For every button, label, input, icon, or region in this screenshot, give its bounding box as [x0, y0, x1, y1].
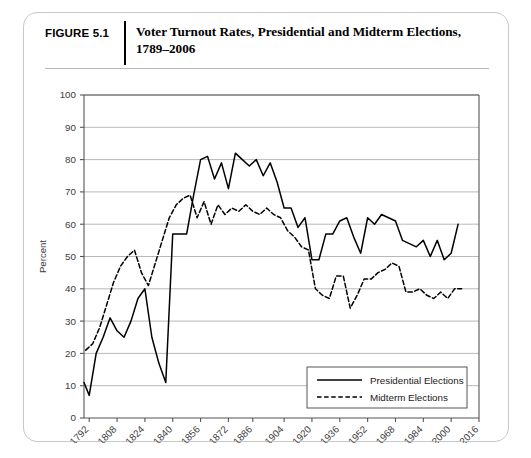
legend-entry-label: Midterm Elections [370, 392, 448, 403]
x-axis-tick-label: 2000 [429, 423, 453, 443]
data-series-group [84, 153, 462, 395]
y-axis-tick-label: 50 [65, 251, 76, 262]
y-axis-tick-label: 30 [65, 316, 76, 327]
y-axis-tick-label: 100 [60, 89, 77, 100]
x-axis-tick-label: 1872 [207, 424, 230, 443]
x-axis-tick-label: 1824 [123, 423, 147, 443]
y-axis-tick-label: 20 [65, 348, 76, 359]
voter-turnout-line-chart: 0102030405060708090100 17921808182418401… [24, 69, 510, 443]
y-axis-tick-label: 10 [65, 380, 76, 391]
gridlines-group [84, 95, 479, 386]
y-axis-tick-label: 0 [71, 412, 77, 423]
y-axis-tick-label: 80 [65, 154, 76, 165]
header-divider [124, 21, 126, 65]
x-axis-tick-label: 1984 [402, 423, 426, 443]
legend-entry-label: Presidential Elections [370, 375, 464, 386]
x-axis-tick-label: 1968 [374, 423, 398, 443]
x-axis-tick-label: 1952 [346, 424, 369, 443]
figure-header: FIGURE 5.1 Voter Turnout Rates, Presiden… [24, 13, 508, 69]
figure-number-label: FIGURE 5.1 [45, 27, 109, 39]
y-axis-tick-label: 70 [65, 186, 76, 197]
y-axis-tick-label: 60 [65, 219, 76, 230]
y-axis-tick-label: 90 [65, 122, 76, 133]
x-axis-tick-label: 1886 [231, 423, 255, 443]
x-axis-tick-label: 1856 [179, 423, 203, 443]
x-axis-tick-label: 1808 [95, 423, 119, 443]
x-axis-tick-label: 1920 [290, 423, 314, 443]
data-line-solid [84, 153, 458, 395]
x-axis-tick-label: 1840 [151, 423, 175, 443]
y-axis-ticks-group: 0102030405060708090100 [60, 89, 84, 423]
figure-title: Voter Turnout Rates, Presidential and Mi… [136, 24, 486, 57]
x-axis-tick-label: 1792 [67, 424, 90, 443]
data-line-dashed [86, 195, 462, 350]
x-axis-tick-label: 1904 [262, 423, 286, 443]
y-axis-tick-label: 40 [65, 283, 76, 294]
x-axis-ticks-group: 1792180818241840185618721886190419201936… [67, 418, 480, 443]
x-axis-tick-label: 2016 [457, 423, 481, 443]
chart-plot-area: 0102030405060708090100 17921808182418401… [24, 69, 508, 443]
y-axis-label: Percent [37, 240, 48, 273]
figure-card: FIGURE 5.1 Voter Turnout Rates, Presiden… [23, 12, 509, 442]
chart-legend: Presidential ElectionsMidterm Elections [307, 367, 467, 408]
x-axis-tick-label: 1936 [318, 423, 342, 443]
